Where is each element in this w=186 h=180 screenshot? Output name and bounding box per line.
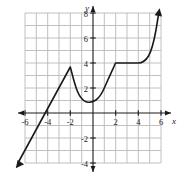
x-tick-label-neg4: -4: [44, 117, 52, 127]
coordinate-plane-svg: -6 -4 -2 2 4 6 8 6 4 2 -2 -4 y x: [0, 0, 186, 180]
x-tick-label-neg2: -2: [67, 117, 74, 127]
y-tick-label-neg4: -4: [81, 159, 89, 169]
x-tick-label-neg6: -6: [21, 117, 28, 127]
y-tick-label-neg2: -2: [81, 134, 88, 144]
y-axis: [91, 6, 96, 172]
graph-figure: -6 -4 -2 2 4 6 8 6 4 2 -2 -4 y x: [0, 0, 186, 180]
y-tick-label-2: 2: [84, 84, 88, 94]
y-tick-label-4: 4: [84, 59, 89, 69]
x-axis-name-label: x: [171, 116, 176, 126]
curve-arrow-end: [155, 8, 162, 16]
x-tick-label-2: 2: [114, 117, 118, 127]
x-axis: [18, 111, 171, 116]
y-axis-name-label: y: [84, 3, 89, 13]
curve-arrow-start: [16, 160, 24, 168]
x-tick-label-4: 4: [136, 117, 141, 127]
x-tick-label-6: 6: [159, 117, 163, 127]
y-tick-label-6: 6: [84, 34, 88, 44]
